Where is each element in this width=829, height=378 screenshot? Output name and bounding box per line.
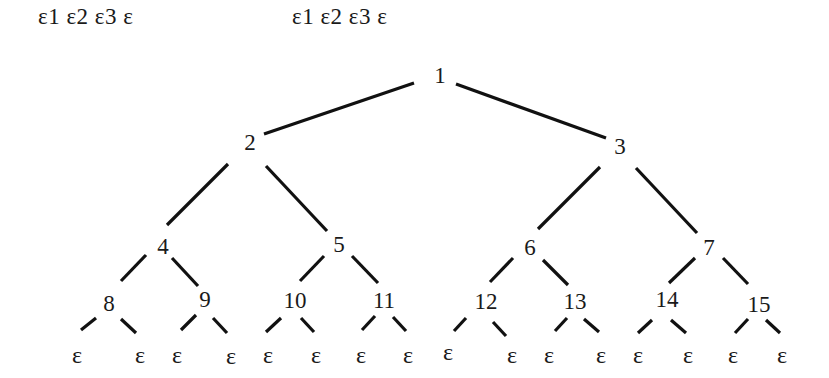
tree-edge-4-9 xyxy=(172,258,198,286)
tree-leaves: εεεεεεεεεεεεεεεε xyxy=(72,339,787,369)
tree-node-14: 14 xyxy=(656,287,680,312)
tree-leaf-epsilon: ε xyxy=(226,343,236,369)
tree-node-7: 7 xyxy=(703,235,715,260)
tree-edge-14-leaf xyxy=(671,320,686,333)
tree-edge-1-3 xyxy=(456,84,606,138)
tree-leaf-epsilon: ε xyxy=(172,342,182,368)
tree-leaf-epsilon: ε xyxy=(443,339,453,365)
tree-leaf-epsilon: ε xyxy=(507,342,517,368)
tree-node-9: 9 xyxy=(199,287,211,312)
tree-edge-6-12 xyxy=(490,258,513,282)
tree-node-6: 6 xyxy=(524,235,536,260)
binary-tree-diagram: 123456789101112131415 εεεεεεεεεεεεεεεε xyxy=(0,0,829,378)
tree-node-8: 8 xyxy=(103,291,115,316)
tree-edge-15-leaf xyxy=(766,320,780,333)
tree-edge-10-leaf xyxy=(266,318,281,332)
tree-edge-12-leaf xyxy=(454,318,466,331)
tree-edge-11-leaf xyxy=(393,317,406,331)
tree-edge-5-10 xyxy=(300,256,324,281)
tree-edge-14-leaf xyxy=(638,320,652,333)
tree-node-2: 2 xyxy=(244,130,256,155)
tree-node-15: 15 xyxy=(748,292,771,317)
tree-leaf-epsilon: ε xyxy=(596,342,606,368)
tree-node-11: 11 xyxy=(373,288,395,313)
tree-leaf-epsilon: ε xyxy=(777,342,787,368)
tree-edge-6-13 xyxy=(543,260,568,285)
tree-leaf-epsilon: ε xyxy=(135,342,145,368)
tree-leaf-epsilon: ε xyxy=(403,342,413,368)
tree-leaf-epsilon: ε xyxy=(633,342,643,368)
tree-leaf-epsilon: ε xyxy=(311,342,321,368)
tree-node-4: 4 xyxy=(157,234,169,259)
tree-edge-2-4 xyxy=(167,164,228,225)
tree-leaf-epsilon: ε xyxy=(683,342,693,368)
tree-edge-3-6 xyxy=(538,167,600,229)
tree-node-1: 1 xyxy=(434,63,446,88)
tree-edge-12-leaf xyxy=(493,322,506,336)
tree-edge-1-2 xyxy=(264,83,414,134)
tree-leaf-epsilon: ε xyxy=(356,342,366,368)
tree-leaf-epsilon: ε xyxy=(544,342,554,368)
tree-edge-3-7 xyxy=(636,168,697,233)
tree-edge-2-5 xyxy=(266,166,327,231)
tree-node-3: 3 xyxy=(614,134,626,159)
tree-edge-13-leaf xyxy=(584,319,599,332)
tree-edge-8-leaf xyxy=(121,319,136,333)
tree-leaf-epsilon: ε xyxy=(263,342,273,368)
tree-edge-10-leaf xyxy=(301,318,314,332)
tree-edge-7-15 xyxy=(723,258,748,284)
tree-edge-8-leaf xyxy=(81,318,96,330)
tree-edge-13-leaf xyxy=(555,318,567,331)
tree-edge-9-leaf xyxy=(213,318,227,333)
tree-edge-9-leaf xyxy=(181,315,196,330)
tree-node-13: 13 xyxy=(564,289,587,314)
tree-edge-5-11 xyxy=(352,256,378,283)
tree-edge-15-leaf xyxy=(735,319,748,333)
tree-leaf-epsilon: ε xyxy=(72,342,82,368)
tree-edge-7-14 xyxy=(669,258,695,283)
tree-node-10: 10 xyxy=(284,288,307,313)
tree-node-5: 5 xyxy=(333,232,345,257)
tree-edge-11-leaf xyxy=(362,316,375,330)
tree-edge-4-8 xyxy=(121,255,146,281)
tree-node-12: 12 xyxy=(475,289,498,314)
tree-leaf-epsilon: ε xyxy=(728,342,738,368)
